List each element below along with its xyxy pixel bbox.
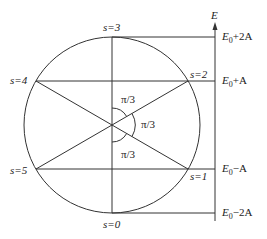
state-label-s3: s=3 [103, 21, 121, 33]
frost-circle-diagram: E s=3 s=4 s=2 s=5 s=1 s=0 E0+2A E0+A E0−… [0, 0, 267, 239]
angle-arc-top [112, 108, 127, 117]
energy-axis-arrow-icon [213, 22, 218, 30]
angle-arc-bottom [112, 134, 127, 143]
state-label-s0: s=0 [103, 218, 121, 230]
state-label-s2: s=2 [190, 68, 208, 80]
angle-label-bottom: π/3 [121, 148, 136, 160]
diagram-canvas: E s=3 s=4 s=2 s=5 s=1 s=0 E0+2A E0+A E0−… [0, 0, 267, 239]
state-label-s5: s=5 [10, 164, 28, 176]
energy-label-e0-minus-2a: E0−2A [221, 206, 252, 221]
angle-label-right: π/3 [141, 118, 156, 130]
state-label-s4: s=4 [10, 74, 28, 86]
axis-label: E [210, 9, 218, 21]
state-label-s1: s=1 [190, 170, 207, 182]
energy-label-e0-plus-a: E0+A [221, 74, 247, 89]
energy-label-e0-plus-2a: E0+2A [221, 30, 252, 45]
angle-arc-right [132, 114, 135, 137]
angle-label-top: π/3 [121, 93, 136, 105]
energy-label-e0-minus-a: E0−A [221, 162, 247, 177]
